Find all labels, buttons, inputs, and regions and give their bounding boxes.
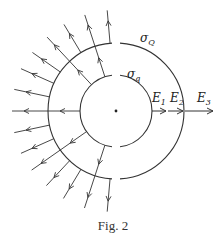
E3-label: E3	[197, 92, 211, 107]
radial-field-arrows	[152, 108, 213, 114]
field-lines	[12, 10, 111, 211]
field-line	[14, 125, 49, 132]
field-line	[107, 10, 110, 43]
field-line	[107, 179, 110, 212]
field-line	[84, 145, 104, 208]
field-line	[64, 24, 81, 52]
E1-label: E1	[152, 92, 166, 107]
field-line	[32, 132, 87, 170]
center-point	[115, 110, 118, 113]
sigma-q-label: σq	[127, 68, 140, 83]
field-line	[46, 161, 69, 186]
field-line	[21, 139, 54, 154]
field-line	[21, 69, 54, 84]
field-line	[32, 52, 60, 72]
field-diagram	[0, 0, 222, 236]
field-line	[63, 169, 81, 198]
E2-label: E2	[170, 92, 184, 107]
sigma-Q-label: σQ	[140, 32, 155, 47]
figure-caption: Fig. 2	[0, 218, 222, 234]
field-line	[14, 89, 49, 96]
